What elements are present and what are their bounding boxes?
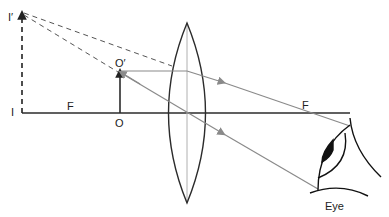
image-top-label: I′: [8, 12, 13, 23]
ray-diagram: [0, 0, 389, 217]
ray-parallel-refracted: [187, 71, 222, 82]
ray-to-object-head: [122, 73, 140, 84]
object-base-label: O: [115, 118, 124, 129]
virtual-ray-lower: [24, 15, 118, 72]
focus-left-label: F: [67, 101, 74, 112]
focus-right-label: F: [302, 100, 309, 111]
ray-center-cont: [222, 133, 318, 189]
eye-icon: [310, 118, 381, 196]
virtual-ray-upper: [24, 13, 172, 66]
ray-parallel-refracted-cont: [222, 82, 350, 126]
image-base-label: I: [11, 107, 14, 118]
eye-label: Eye: [325, 201, 344, 212]
object-top-label: O′: [115, 58, 126, 69]
